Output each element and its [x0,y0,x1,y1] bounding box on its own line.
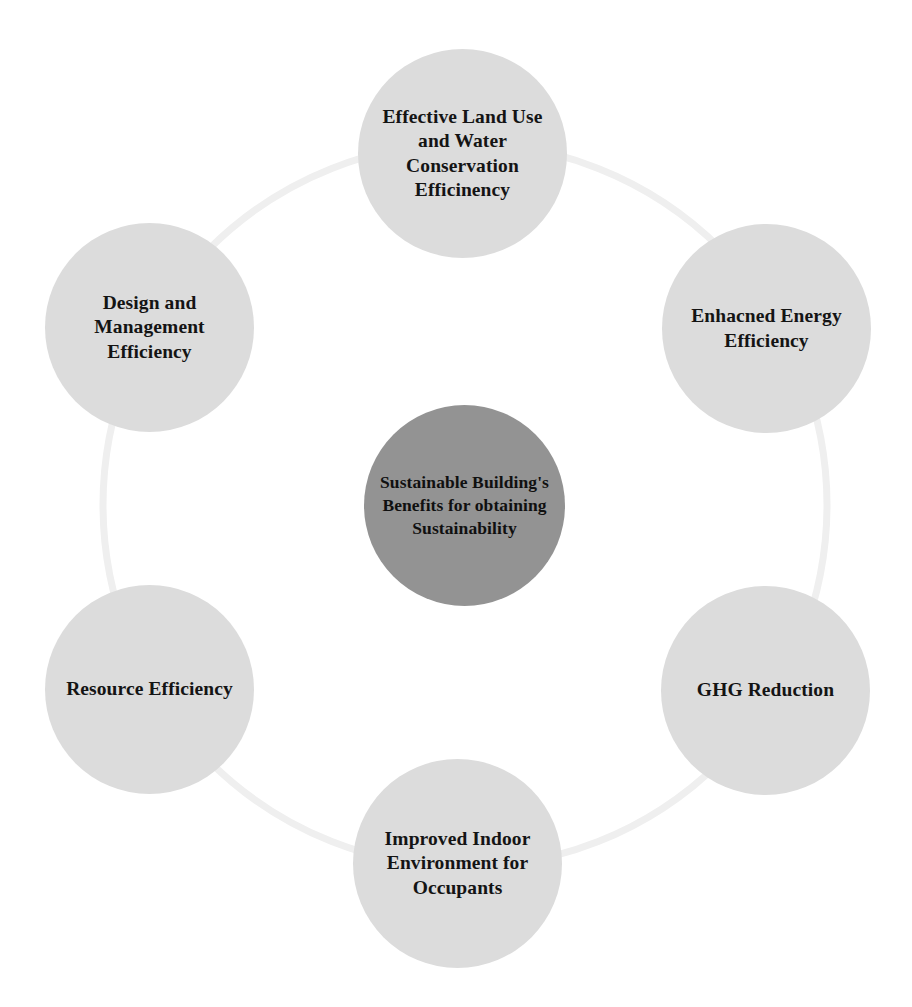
node-ghg-reduction[interactable]: GHG Reduction [661,586,870,795]
hub-node-sustainable-building-benefits[interactable]: Sustainable Building's Benefits for obta… [364,405,565,606]
node-enhanced-energy-efficiency[interactable]: Enhacned Energy Efficiency [662,224,871,433]
node-effective-land-use-and-water-conservation[interactable]: Effective Land Use and Water Conservatio… [358,49,567,258]
node-resource-efficiency[interactable]: Resource Efficiency [45,585,254,794]
node-design-and-management-efficiency[interactable]: Design and Management Efficiency [45,223,254,432]
hub-node-label: Sustainable Building's Benefits for obta… [364,471,565,539]
node-label: Enhacned Energy Efficiency [662,304,871,352]
node-improved-indoor-environment-for-occupants[interactable]: Improved Indoor Environment for Occupant… [353,759,562,968]
node-label: Effective Land Use and Water Conservatio… [358,105,567,202]
node-label: Improved Indoor Environment for Occupant… [353,827,562,900]
node-label: Resource Efficiency [56,677,243,701]
node-label: Design and Management Efficiency [45,291,254,364]
sustainable-building-benefits-diagram: Effective Land Use and Water Conservatio… [0,0,912,1007]
node-label: GHG Reduction [687,678,844,702]
